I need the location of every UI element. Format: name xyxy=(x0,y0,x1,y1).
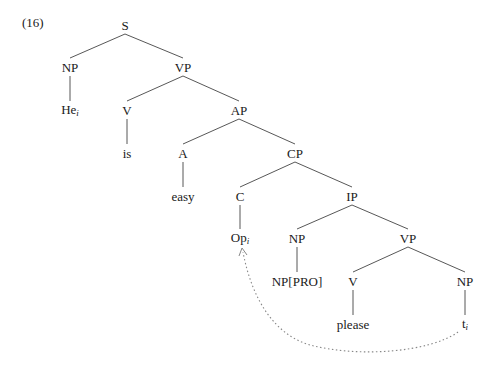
node-label: Op xyxy=(231,230,247,245)
tree-edge xyxy=(239,119,295,144)
node-label: please xyxy=(337,317,369,332)
node-label: S xyxy=(121,18,128,33)
tree-node-ip: IP xyxy=(346,190,358,203)
node-label: V xyxy=(122,103,131,118)
tree-node-c: C xyxy=(236,190,245,203)
node-label: is xyxy=(123,146,132,161)
tree-edge xyxy=(353,247,408,272)
node-label: NP[PRO] xyxy=(272,274,323,289)
index-subscript: i xyxy=(247,236,250,246)
tree-edge xyxy=(125,34,183,58)
tree-node-np1: NP xyxy=(62,61,79,74)
tree-node-op: Opi xyxy=(231,231,249,246)
node-label: NP xyxy=(62,60,79,75)
tree-node-please: please xyxy=(337,318,369,331)
node-label: IP xyxy=(346,189,358,204)
tree-edge xyxy=(295,162,352,187)
node-label: NP xyxy=(457,274,474,289)
tree-node-ap: AP xyxy=(231,104,248,117)
tree-edge xyxy=(183,76,239,101)
tree-node-v2: V xyxy=(348,275,357,288)
tree-edge xyxy=(408,247,465,272)
node-label: NP xyxy=(289,231,306,246)
syntax-tree-diagram: (16) SNPVPHeiVAPisACPeasyCIPOpiNPVPNP[PR… xyxy=(0,0,496,367)
index-subscript: i xyxy=(76,108,79,118)
node-label: VP xyxy=(175,60,192,75)
tree-node-pro: NP[PRO] xyxy=(272,275,323,288)
node-label: AP xyxy=(231,103,248,118)
tree-node-easy: easy xyxy=(171,190,194,203)
tree-node-is: is xyxy=(123,147,132,160)
tree-node-v1: V xyxy=(122,104,131,117)
tree-edge xyxy=(183,119,239,144)
node-label: VP xyxy=(400,231,417,246)
node-label: CP xyxy=(287,146,303,161)
node-label: He xyxy=(61,102,76,117)
tree-node-he: Hei xyxy=(61,103,79,118)
tree-edge xyxy=(352,205,408,229)
tree-node-vp2: VP xyxy=(400,232,417,245)
node-label: A xyxy=(178,146,187,161)
tree-edge xyxy=(297,205,352,229)
tree-node-vp1: VP xyxy=(175,61,192,74)
tree-node-np2: NP xyxy=(289,232,306,245)
index-subscript: i xyxy=(466,322,469,332)
tree-edges xyxy=(0,0,496,367)
tree-node-cp: CP xyxy=(287,147,303,160)
tree-edge xyxy=(70,34,125,58)
tree-node-s: S xyxy=(121,19,128,32)
node-label: V xyxy=(348,274,357,289)
tree-node-np3: NP xyxy=(457,275,474,288)
node-label: easy xyxy=(171,189,194,204)
node-label: C xyxy=(236,189,245,204)
tree-edge xyxy=(240,162,295,187)
tree-node-a: A xyxy=(178,147,187,160)
tree-node-t: ti xyxy=(462,317,468,332)
movement-arrow xyxy=(243,252,458,352)
tree-edge xyxy=(127,76,183,101)
